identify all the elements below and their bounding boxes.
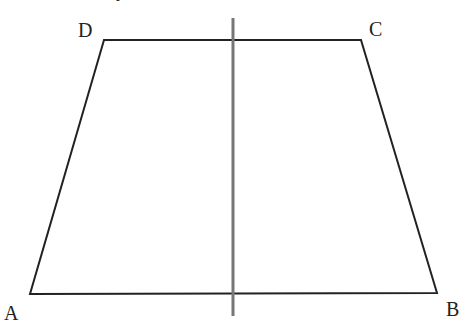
- vertex-label-c: C: [369, 18, 382, 40]
- partial-caption-text: y: [116, 0, 126, 1]
- vertex-label-a: A: [4, 302, 19, 324]
- vertex-label-b: B: [446, 298, 459, 320]
- trapezoid-diagram: y D C A B: [0, 0, 466, 334]
- vertex-label-d: D: [78, 19, 92, 41]
